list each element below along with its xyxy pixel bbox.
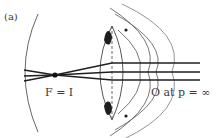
diagram-canvas: (a) F = I O at p = ∞ xyxy=(0,0,220,138)
panel-label: (a) xyxy=(4,11,18,22)
focal-point-dot xyxy=(52,72,57,77)
dot-top xyxy=(124,28,127,31)
focal-label: F = I xyxy=(45,86,73,99)
optics-diagram: (a) F = I O at p = ∞ xyxy=(0,0,220,138)
object-label: O at p = ∞ xyxy=(151,86,210,99)
dot-bottom xyxy=(124,114,127,117)
ciliary-blob-bottom xyxy=(104,102,112,116)
retina-arc xyxy=(25,14,38,132)
ciliary-blob-top xyxy=(104,31,112,45)
